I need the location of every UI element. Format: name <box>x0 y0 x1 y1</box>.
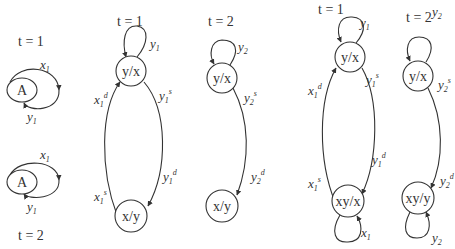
edge-label-y1: y1 <box>148 36 160 53</box>
edge-label-y2: y2 <box>430 4 442 21</box>
self-loop-bottom-arrow <box>335 215 361 242</box>
edge-label-y2d: y2d <box>438 172 455 190</box>
time-label: t = 1 <box>18 34 44 49</box>
edge-label-x1s: x1s <box>93 188 107 206</box>
edge-left-arrow <box>105 82 120 215</box>
panel-a-top: t = 1 A x1 y1 <box>7 34 59 126</box>
edge-label-y2: y2 <box>430 230 442 247</box>
panel-b: t = 1 y/x x/y y1 x1d x1s y1s y1d <box>93 14 178 232</box>
self-loop-arrow <box>124 26 146 57</box>
edge-label-y2d: y2d <box>249 168 266 186</box>
edge-label-y1s: y1s <box>364 71 379 89</box>
self-loop-bottom-arrow <box>406 212 430 238</box>
node-label: A <box>17 83 28 98</box>
node-label: x/y <box>213 199 231 214</box>
panel-a-bottom: A x1 y1 t = 2 <box>7 147 59 243</box>
panel-d: t = 1 y/x xy/x y1 x1d x1s y1s y1d x1 <box>307 2 387 242</box>
self-loop-top-arrow <box>407 37 431 62</box>
panel-c: t = 2 y/x x/y y2 y2s y2d <box>206 14 266 222</box>
edge-label-y1s: y1s <box>157 87 172 105</box>
node-label: y/x <box>122 64 140 79</box>
edge-label-x1: x1 <box>360 225 371 242</box>
time-label: t = 2 <box>18 228 44 243</box>
node-label: y/x <box>341 50 359 65</box>
edge-label-x1: x1 <box>39 147 50 164</box>
edge-label-y1: y1 <box>25 199 37 216</box>
edge-label-x1: x1 <box>39 57 50 74</box>
edge-label-y2s: y2s <box>242 89 257 107</box>
edge-label-y1: y1 <box>25 109 37 126</box>
time-label: t = 1 <box>318 2 344 17</box>
edge-label-y2: y2 <box>236 39 248 56</box>
edge-label-x1d: x1d <box>93 91 109 109</box>
edge-label-x1s: x1s <box>307 175 321 193</box>
node-label: y/x <box>213 71 231 86</box>
edge-label-y1: y1 <box>358 15 370 32</box>
node-label: y/x <box>409 69 427 84</box>
panel-e: t = 2 y/x xy/y y2 y2s y2d y2 <box>402 4 455 247</box>
edge-left-arrow <box>322 68 336 202</box>
time-label: t = 2 <box>208 14 234 29</box>
node-label: A <box>17 175 28 190</box>
edge-label-x1d: x1d <box>307 82 323 100</box>
edge-label-y1d: y1d <box>370 151 387 169</box>
edge-label-y1d: y1d <box>161 168 178 186</box>
time-label: t = 2 <box>406 10 432 25</box>
state-diagram: t = 1 A x1 y1 A x1 y1 t = 2 t = 1 y/x x/… <box>0 0 455 249</box>
self-loop-arrow <box>211 40 235 65</box>
node-label: xy/y <box>406 191 431 206</box>
node-label: x/y <box>122 209 140 224</box>
node-label: xy/x <box>336 194 361 209</box>
edge-right-arrow <box>428 88 440 188</box>
edge-label-y2s: y2s <box>436 76 451 94</box>
